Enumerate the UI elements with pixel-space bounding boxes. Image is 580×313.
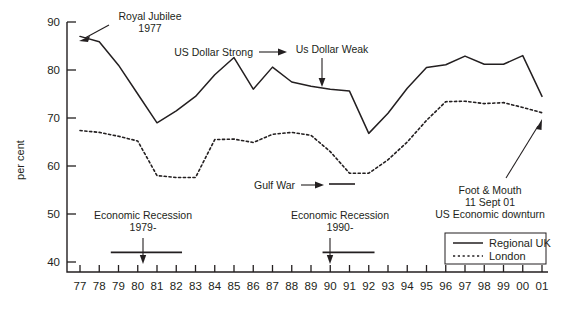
x-axis-tick-label: 97	[459, 280, 472, 292]
x-axis-tick-label: 84	[208, 280, 221, 292]
x-axis-tick-label: 89	[305, 280, 318, 292]
y-axis-tick-label: 40	[47, 256, 60, 268]
y-axis-ticks	[67, 22, 76, 262]
annotation-recession-1979: Economic Recession 1979-	[94, 209, 192, 264]
x-axis-tick-label: 95	[420, 280, 433, 292]
annotation-us-dollar-weak-label: Us Dollar Weak	[296, 43, 369, 55]
annotation-us-dollar-strong-label: US Dollar Strong	[174, 46, 253, 58]
y-axis-title: per cent	[14, 140, 26, 180]
x-axis-tick-label: 78	[93, 280, 106, 292]
y-axis-tick-label: 60	[47, 160, 60, 172]
annotation-foot-mouth: Foot & Mouth 11 Sept 01 US Economic down…	[435, 119, 545, 220]
chart-legend[interactable]: Regional UK London	[445, 233, 551, 264]
legend-label-london[interactable]: London	[489, 250, 526, 262]
x-axis-tick-label: 00	[516, 280, 529, 292]
annotation-recession-1990-line2: 1990-	[327, 221, 354, 233]
x-axis-tick-label: 98	[478, 280, 491, 292]
annotation-royal-jubilee-line1: Royal Jubilee	[118, 10, 181, 22]
annotation-royal-jubilee-arrow	[85, 25, 109, 38]
series-london	[80, 101, 542, 177]
x-axis-ticks	[80, 265, 542, 272]
annotation-us-dollar-strong-arrowhead	[278, 49, 287, 56]
x-axis-tick-label: 79	[112, 280, 125, 292]
annotation-royal-jubilee: Royal Jubilee 1977	[79, 10, 182, 42]
legend-label-regional-uk[interactable]: Regional UK	[489, 237, 551, 249]
axis-lines	[67, 22, 548, 272]
axes-group	[67, 22, 548, 272]
annotation-recession-1990-line1: Economic Recession	[291, 209, 389, 221]
annotation-gulf-war: Gulf War	[254, 179, 355, 191]
y-axis-tick-labels: 405060708090	[47, 16, 60, 268]
annotation-recession-1979-line2: 1979-	[130, 221, 157, 233]
annotation-royal-jubilee-line2: 1977	[138, 22, 162, 34]
annotation-recession-1979-arrowhead	[140, 255, 146, 264]
y-axis-tick-label: 50	[47, 208, 60, 220]
x-axis-tick-label: 88	[285, 280, 298, 292]
x-axis-tick-label: 90	[324, 280, 337, 292]
x-axis-tick-label: 83	[189, 280, 202, 292]
annotation-foot-mouth-arrowhead	[536, 119, 542, 130]
x-axis-tick-label: 81	[151, 280, 164, 292]
annotation-recession-1979-line1: Economic Recession	[94, 209, 192, 221]
annotation-gulf-war-arrowhead	[315, 182, 324, 189]
x-axis-tick-label: 77	[74, 280, 87, 292]
x-axis-tick-label: 86	[247, 280, 260, 292]
x-axis-tick-label: 82	[170, 280, 183, 292]
annotation-gulf-war-label: Gulf War	[254, 179, 296, 191]
line-chart-plot: 405060708090 777879808182838485868788899…	[0, 0, 580, 313]
annotation-us-dollar-weak-arrowhead	[319, 78, 326, 87]
x-axis-tick-label: 99	[497, 280, 510, 292]
annotation-us-dollar-weak: Us Dollar Weak	[296, 43, 369, 87]
x-axis-tick-label: 80	[131, 280, 144, 292]
series-group	[80, 36, 542, 177]
x-axis-tick-label: 01	[536, 280, 549, 292]
x-axis-tick-label: 87	[266, 280, 279, 292]
annotation-foot-mouth-arrow	[506, 126, 538, 178]
annotation-recession-1990-arrowhead	[327, 255, 333, 264]
x-axis-tick-label: 92	[362, 280, 375, 292]
annotation-recession-1990: Economic Recession 1990-	[291, 209, 389, 264]
x-axis-tick-label: 94	[401, 280, 414, 292]
x-axis-tick-label: 93	[382, 280, 395, 292]
x-axis-tick-label: 85	[228, 280, 241, 292]
annotation-foot-mouth-line2: 11 Sept 01	[465, 196, 515, 208]
chart-container: 405060708090 777879808182838485868788899…	[0, 0, 580, 313]
annotation-foot-mouth-line3: US Economic downturn	[435, 208, 545, 220]
y-axis-tick-label: 90	[47, 16, 60, 28]
y-axis-tick-label: 80	[47, 64, 60, 76]
x-axis-tick-labels: 7778798081828384858687888990919293949596…	[74, 280, 549, 292]
x-axis-tick-label: 96	[439, 280, 452, 292]
y-axis-tick-label: 70	[47, 112, 60, 124]
annotation-foot-mouth-line1: Foot & Mouth	[458, 184, 521, 196]
x-axis-tick-label: 91	[343, 280, 356, 292]
annotation-us-dollar-strong: US Dollar Strong	[174, 46, 287, 58]
